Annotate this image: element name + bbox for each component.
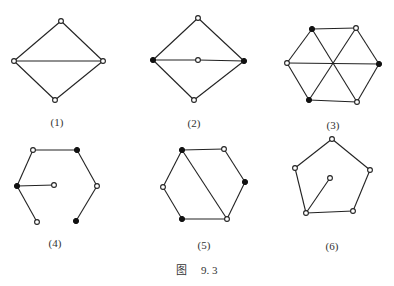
graph-edge	[287, 63, 379, 64]
graph-4	[14, 147, 99, 224]
graph-edge	[224, 149, 245, 182]
graph-edge	[309, 100, 357, 102]
graph-edge	[76, 186, 97, 221]
filled-vertex-icon	[73, 218, 78, 223]
graph-edge	[198, 18, 244, 61]
graph-edge	[61, 21, 103, 61]
open-vertex-icon	[222, 147, 227, 152]
graph-edge	[182, 150, 227, 219]
graph-edge	[163, 150, 182, 187]
filled-vertex-icon	[306, 97, 311, 102]
open-vertex-icon	[196, 58, 201, 63]
filled-vertex-icon	[309, 26, 314, 31]
open-vertex-icon	[225, 217, 230, 222]
graph-3	[285, 26, 382, 105]
open-vertex-icon	[59, 19, 64, 24]
graph-edge	[17, 186, 37, 222]
graph-1	[12, 19, 106, 103]
graph-edge	[357, 64, 379, 102]
graph-edge	[287, 29, 312, 63]
filled-vertex-icon	[74, 147, 79, 152]
open-vertex-icon	[368, 168, 373, 173]
graph-edge	[14, 21, 61, 61]
open-vertex-icon	[31, 148, 36, 153]
graph-edge	[198, 60, 244, 61]
open-vertex-icon	[293, 166, 298, 171]
open-vertex-icon	[330, 137, 335, 142]
graph-edge	[306, 211, 353, 213]
graph-edge	[55, 61, 103, 100]
graph-edge	[163, 187, 182, 219]
graph-edge	[17, 185, 54, 186]
graph-edge	[295, 168, 306, 213]
graph-edge	[287, 63, 309, 100]
filled-vertex-icon	[179, 216, 184, 221]
open-vertex-icon	[12, 59, 17, 64]
open-vertex-icon	[196, 16, 201, 21]
filled-vertex-icon	[376, 61, 381, 66]
filled-vertex-icon	[242, 179, 247, 184]
figure-label-3: (3)	[327, 119, 340, 131]
graph-edge	[353, 170, 370, 211]
graph-edge	[312, 29, 357, 102]
figure-label-4: (4)	[49, 237, 62, 249]
graph-5	[161, 147, 248, 222]
graph-edge	[182, 149, 224, 150]
open-vertex-icon	[285, 61, 290, 66]
open-vertex-icon	[351, 209, 356, 214]
open-vertex-icon	[101, 59, 106, 64]
graph-edge	[295, 139, 332, 168]
figure-label-1: (1)	[51, 116, 64, 128]
graph-2	[150, 16, 246, 103]
graph-6	[293, 137, 373, 216]
graph-edge	[194, 61, 244, 100]
caption-number: 9. 3	[201, 264, 218, 276]
open-vertex-icon	[192, 98, 197, 103]
filled-vertex-icon	[179, 147, 184, 152]
open-vertex-icon	[354, 26, 359, 31]
graph-edge	[153, 18, 198, 60]
figure-label-5: (5)	[198, 239, 211, 251]
open-vertex-icon	[304, 211, 309, 216]
figure-9-3: (1) (2) (3) (4) (5) (6) 图9. 3	[0, 0, 394, 286]
open-vertex-icon	[52, 183, 57, 188]
graph-edge	[312, 28, 356, 29]
figure-label-2: (2)	[188, 117, 201, 129]
figure-label-6: (6)	[326, 240, 339, 252]
graph-edge	[356, 28, 379, 64]
open-vertex-icon	[53, 98, 58, 103]
filled-vertex-icon	[150, 57, 155, 62]
open-vertex-icon	[35, 220, 40, 225]
graph-edge	[77, 150, 97, 186]
graph-edge	[332, 139, 370, 170]
caption-prefix: 图	[176, 264, 187, 276]
open-vertex-icon	[95, 184, 100, 189]
figure-caption: 图9. 3	[176, 261, 218, 277]
open-vertex-icon	[328, 176, 333, 181]
filled-vertex-icon	[241, 58, 246, 63]
open-vertex-icon	[161, 185, 166, 190]
graph-edge	[306, 178, 330, 213]
graph-edge	[153, 60, 194, 100]
open-vertex-icon	[355, 100, 360, 105]
graph-edge	[17, 150, 33, 186]
graph-edge	[14, 61, 55, 100]
graph-edge	[227, 182, 245, 219]
filled-vertex-icon	[14, 183, 19, 188]
